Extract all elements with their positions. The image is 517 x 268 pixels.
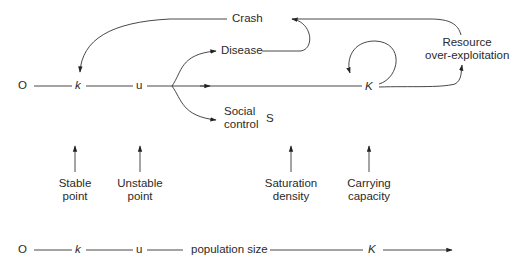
stable-point-line1: Stable: [50, 177, 100, 190]
resource-overexploitation-label: Resource over-exploitation: [425, 36, 509, 62]
branch-to-disease: [172, 51, 216, 86]
resource-line2: over-exploitation: [425, 49, 509, 62]
saturation-density-line2: density: [261, 190, 321, 203]
K-to-resource: [379, 65, 462, 87]
unstable-point-line1: Unstable: [112, 177, 168, 190]
saturation-S-label: S: [266, 112, 274, 125]
K-self-loop: [349, 41, 396, 84]
social-control-label: Social control: [224, 105, 259, 131]
crash-to-k: [80, 19, 227, 72]
disease-to-crash: [262, 19, 310, 51]
resource-line1: Resource: [425, 36, 509, 49]
social-control-line2: control: [224, 118, 259, 131]
carrying-capacity-label: Carrying capacity: [341, 177, 397, 203]
stable-point-k-label: k: [75, 79, 81, 92]
unstable-point-label: Unstable point: [112, 177, 168, 203]
resource-to-crash: [292, 19, 461, 35]
bottom-origin-label: O: [18, 243, 27, 256]
saturation-density-label: Saturation density: [261, 177, 321, 203]
bottom-u-label: u: [136, 243, 142, 256]
social-control-line1: Social: [224, 105, 259, 118]
population-size-label: population size: [191, 243, 268, 256]
unstable-point-line2: point: [112, 190, 168, 203]
carrying-capacity-line2: capacity: [341, 190, 397, 203]
carrying-capacity-K-label: K: [365, 80, 373, 93]
bottom-K-label: K: [368, 243, 376, 256]
disease-label: Disease: [221, 44, 263, 57]
crash-label: Crash: [232, 12, 263, 25]
origin-label: O: [18, 79, 27, 92]
stable-point-line2: point: [50, 190, 100, 203]
saturation-density-line1: Saturation: [261, 177, 321, 190]
stable-point-label: Stable point: [50, 177, 100, 203]
carrying-capacity-line1: Carrying: [341, 177, 397, 190]
unstable-point-u-label: u: [136, 79, 142, 92]
bottom-k-label: k: [75, 243, 81, 256]
branch-to-social-control: [172, 86, 216, 120]
